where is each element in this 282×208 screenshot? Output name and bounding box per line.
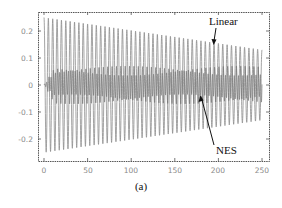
y-tick-label: -0.1: [18, 108, 33, 117]
x-tick-label: 100: [124, 166, 139, 175]
chart: 0.2 0.1 0 -0.1 -0.2 0 50 100 150 200 250…: [0, 0, 282, 208]
x-tick-label: 200: [211, 166, 226, 175]
linear-label: Linear: [209, 15, 238, 27]
arrow-head-icon: [212, 39, 217, 45]
y-tick-label: 0.2: [21, 27, 33, 36]
x-tick-label: 250: [255, 166, 270, 175]
nes-label: NES: [216, 144, 237, 156]
figure-caption: (a): [0, 180, 282, 192]
y-tick-label: 0: [28, 81, 33, 90]
series-nes: [44, 66, 262, 104]
y-tick-label: 0.1: [21, 54, 33, 63]
x-tick-label: 150: [168, 166, 183, 175]
x-tick-label: 0: [42, 166, 47, 175]
linear-arrow: [214, 28, 216, 41]
y-tick-label: -0.2: [18, 135, 33, 144]
x-tick-label: 50: [83, 166, 93, 175]
